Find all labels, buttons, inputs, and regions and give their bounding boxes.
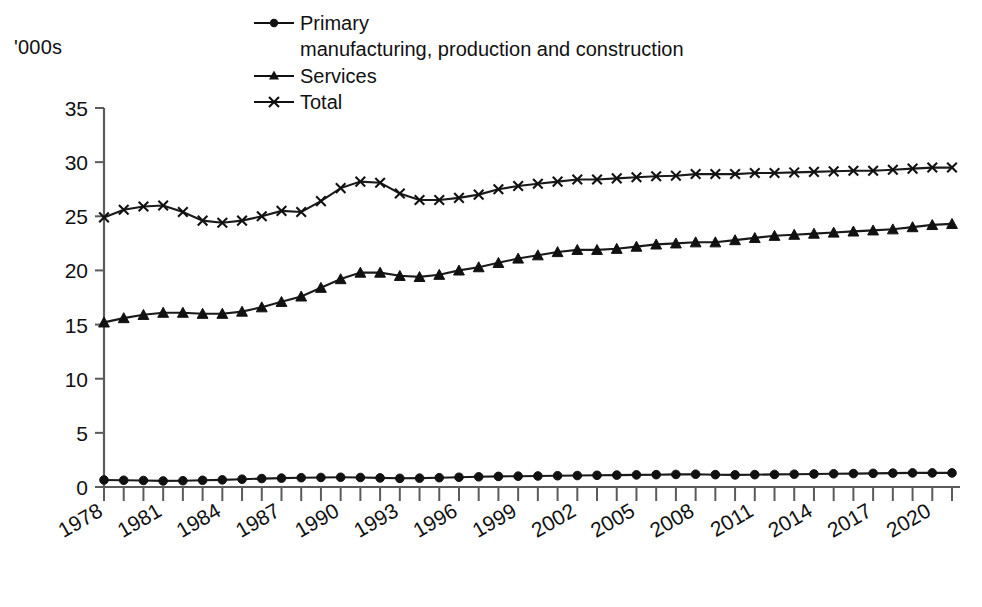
data-point-circle — [928, 469, 937, 478]
data-point-circle — [593, 471, 602, 480]
data-point-circle — [869, 469, 878, 478]
x-axis-tick-label: 1996 — [409, 499, 461, 542]
data-point-circle — [238, 475, 247, 484]
data-point-circle — [257, 474, 266, 483]
data-point-circle — [612, 471, 621, 480]
series-line — [104, 168, 952, 223]
data-point-circle — [455, 473, 464, 482]
data-point-triangle — [296, 291, 307, 301]
y-axis-tick-label: 30 — [65, 151, 88, 174]
data-point-circle — [336, 473, 345, 482]
y-axis-tick-label: 25 — [65, 205, 88, 228]
data-point-circle — [849, 469, 858, 478]
x-axis — [104, 487, 960, 501]
data-point-circle — [100, 476, 109, 485]
chart-page: '000s Primary manufacturing, production … — [0, 0, 982, 607]
x-axis-tick-label: 1990 — [291, 499, 343, 542]
line-chart-plot: 05101520253035 1978198119841987199019931… — [0, 0, 982, 607]
x-axis-tick-label: 1984 — [172, 498, 224, 541]
data-point-circle — [494, 472, 503, 481]
data-point-circle — [218, 476, 227, 485]
y-axis-tick-label: 35 — [65, 97, 88, 120]
series-line — [104, 473, 952, 481]
x-axis-tick-label: 1981 — [113, 499, 165, 542]
data-point-triangle — [316, 282, 327, 292]
data-point-circle — [159, 477, 168, 486]
x-axis-tick-label: 1987 — [232, 499, 284, 542]
data-point-circle — [514, 472, 523, 481]
data-point-circle — [474, 473, 483, 482]
x-axis-tick-label: 2005 — [587, 499, 639, 542]
x-axis-tick-label: 1978 — [54, 499, 106, 542]
data-point-circle — [691, 470, 700, 479]
data-point-circle — [632, 471, 641, 480]
x-axis-tick-label: 2017 — [823, 499, 875, 542]
y-axis-tick-label: 20 — [65, 259, 88, 282]
data-point-circle — [948, 469, 957, 478]
data-point-circle — [553, 471, 562, 480]
series-triangle — [99, 218, 958, 327]
data-point-circle — [277, 474, 286, 483]
data-point-circle — [119, 476, 128, 485]
data-point-circle — [198, 476, 207, 485]
data-point-circle — [297, 473, 306, 482]
data-point-circle — [731, 471, 740, 480]
y-axis-tick-label: 15 — [65, 314, 88, 337]
data-point-circle — [179, 476, 188, 485]
x-axis-tick-label: 2002 — [527, 499, 579, 542]
data-point-circle — [435, 473, 444, 482]
y-axis: 05101520253035 — [65, 97, 104, 499]
data-point-circle — [750, 470, 759, 479]
data-point-circle — [711, 470, 720, 479]
series-circle — [100, 469, 957, 486]
data-point-circle — [356, 473, 365, 482]
data-point-circle — [908, 469, 917, 478]
data-point-circle — [672, 470, 681, 479]
series-cross — [99, 163, 957, 228]
x-axis-labels: 1978198119841987199019931996199920022005… — [54, 498, 934, 541]
data-point-circle — [573, 471, 582, 480]
y-axis-tick-label: 5 — [76, 422, 88, 445]
data-point-circle — [790, 470, 799, 479]
x-axis-tick-label: 1999 — [468, 499, 520, 542]
data-point-circle — [810, 470, 819, 479]
y-axis-tick-label: 0 — [76, 476, 88, 499]
data-point-circle — [396, 474, 405, 483]
data-point-circle — [317, 473, 326, 482]
x-axis-tick-label: 2014 — [764, 498, 816, 541]
data-point-circle — [889, 469, 898, 478]
data-point-circle — [652, 470, 661, 479]
data-point-circle — [770, 470, 779, 479]
x-axis-tick-label: 1993 — [350, 499, 402, 542]
data-point-circle — [415, 474, 424, 483]
data-point-circle — [829, 469, 838, 478]
data-series-group — [99, 163, 958, 485]
x-axis-tick-label: 2020 — [882, 499, 934, 542]
data-point-circle — [376, 474, 385, 483]
data-point-circle — [139, 476, 148, 485]
x-axis-tick-label: 2011 — [706, 499, 757, 542]
series-line — [104, 224, 952, 323]
y-axis-tick-label: 10 — [65, 368, 88, 391]
data-point-circle — [534, 472, 543, 481]
x-axis-tick-label: 2008 — [646, 499, 698, 542]
